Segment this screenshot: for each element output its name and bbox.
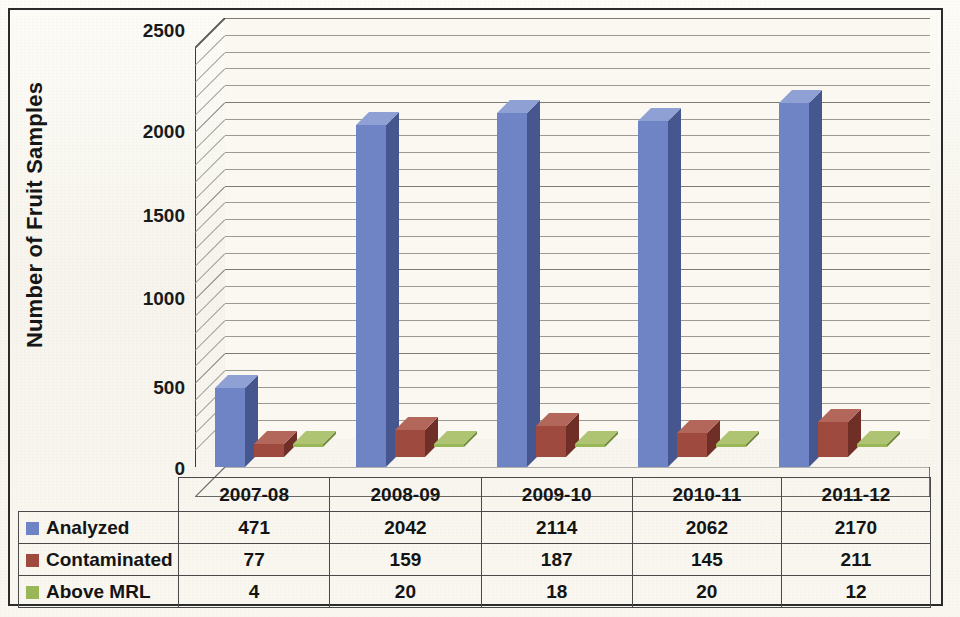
bar-front-face [818, 422, 848, 457]
bar-above-mrl-2008-09 [434, 444, 464, 447]
gridline-2300 [225, 52, 930, 53]
gridline-2100 [225, 85, 930, 86]
gridline-2200 [225, 68, 930, 69]
gridline-200 [225, 403, 930, 404]
gridline-depth-2200 [195, 68, 226, 99]
table-row: Analyzed4712042211420622170 [19, 512, 931, 544]
bar-side-face [527, 100, 540, 467]
bar-contaminated-2011-12 [818, 422, 848, 457]
table-header-row: 2007-082008-092009-102010-112011-12 [19, 478, 931, 512]
table-cell: 471 [179, 512, 330, 544]
gridline-depth-500 [195, 353, 226, 384]
bar-side-face [809, 90, 822, 467]
table-cell: 2042 [330, 512, 481, 544]
bar-front-face [497, 113, 527, 467]
legend-label: Contaminated [46, 549, 173, 570]
legend-label: Above MRL [46, 581, 151, 602]
y-tick-1500: 1500 [65, 205, 185, 227]
gridline-1000 [225, 269, 930, 270]
bar-above-mrl-2009-10 [575, 444, 605, 447]
gridline-depth-1400 [195, 203, 226, 234]
y-tick-2500: 2500 [65, 20, 185, 42]
bar-front-face [293, 444, 323, 447]
legend-swatch-icon [26, 586, 39, 599]
bar-side-face [386, 112, 399, 467]
bar-contaminated-2007-08 [254, 444, 284, 457]
bar-analyzed-2007-08 [215, 388, 245, 467]
legend-swatch-icon [26, 554, 39, 567]
bar-front-face [356, 125, 386, 467]
bar-front-face [638, 121, 668, 467]
gridline-500 [225, 353, 930, 354]
gridline-2000 [225, 102, 930, 103]
bar-front-face [575, 444, 605, 447]
bar-front-face [395, 430, 425, 457]
chart-back-wall [225, 18, 930, 439]
table-column-header-2009-10: 2009-10 [481, 478, 632, 512]
table-cell: 4 [179, 576, 330, 608]
chart-left-wall-edge [195, 48, 196, 467]
gridline-700 [225, 320, 930, 321]
table-row: Above MRL420182012 [19, 576, 931, 608]
gridline-depth-1200 [195, 236, 226, 267]
bar-front-face [857, 444, 887, 447]
bar-above-mrl-2007-08 [293, 444, 323, 447]
table-cell: 187 [481, 544, 632, 576]
gridline-depth-1300 [195, 219, 226, 250]
table-cell: 2114 [481, 512, 632, 544]
gridline-depth-600 [195, 337, 226, 368]
table-column-header-2011-12: 2011-12 [781, 478, 930, 512]
table-corner-cell [19, 478, 179, 512]
bar-contaminated-2008-09 [395, 430, 425, 457]
gridline-depth-1600 [195, 169, 226, 200]
legend-item-contaminated: Contaminated [19, 544, 179, 576]
bar-front-face [677, 433, 707, 457]
gridline-1100 [225, 253, 930, 254]
gridline-depth-2000 [195, 102, 226, 133]
bar-front-face [215, 388, 245, 467]
gridline-depth-1000 [195, 270, 226, 301]
y-tick-1000: 1000 [65, 288, 185, 310]
bar-analyzed-2011-12 [779, 103, 809, 467]
gridline-depth-1900 [195, 119, 226, 150]
bar-front-face [254, 444, 284, 457]
bar-front-face [536, 426, 566, 457]
bar-front-face [779, 103, 809, 467]
bar-analyzed-2010-11 [638, 121, 668, 467]
gridline-depth-1700 [195, 152, 226, 183]
legend-item-analyzed: Analyzed [19, 512, 179, 544]
plot-area [195, 18, 930, 473]
table-cell: 145 [632, 544, 781, 576]
table-row: Contaminated77159187145211 [19, 544, 931, 576]
bar-above-mrl-2011-12 [857, 444, 887, 447]
gridline-1400 [225, 202, 930, 203]
bar-contaminated-2010-11 [677, 433, 707, 457]
table-cell: 2062 [632, 512, 781, 544]
gridline-1800 [225, 135, 930, 136]
y-tick-500: 500 [65, 377, 185, 399]
gridline-1300 [225, 219, 930, 220]
bar-side-face [668, 108, 681, 467]
gridline-depth-900 [195, 286, 226, 317]
gridline-depth-700 [195, 320, 226, 351]
gridline-2400 [225, 35, 930, 36]
table-column-header-2008-09: 2008-09 [330, 478, 481, 512]
bar-analyzed-2009-10 [497, 113, 527, 467]
gridline-1700 [225, 152, 930, 153]
chart-page: Number of Fruit Samples 2500 2000 1500 1… [0, 0, 960, 617]
gridline-600 [225, 336, 930, 337]
y-axis-title: Number of Fruit Samples [22, 75, 52, 355]
table-cell: 2170 [781, 512, 930, 544]
gridline-depth-1800 [195, 135, 226, 166]
bar-contaminated-2009-10 [536, 426, 566, 457]
bar-above-mrl-2010-11 [716, 444, 746, 447]
y-axis-tick-labels: 2500 2000 1500 1000 500 0 [60, 0, 185, 480]
gridline-depth-2300 [195, 52, 226, 83]
gridline-1500 [225, 186, 930, 187]
bar-front-face [434, 444, 464, 447]
table-cell: 12 [781, 576, 930, 608]
gridline-800 [225, 303, 930, 304]
gridline-900 [225, 286, 930, 287]
gridline-1200 [225, 236, 930, 237]
gridline-400 [225, 370, 930, 371]
